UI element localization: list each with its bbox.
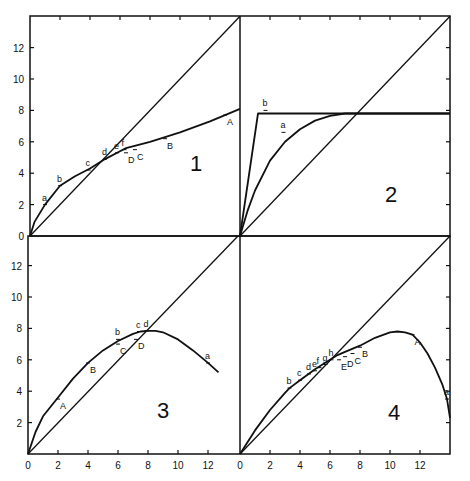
point-label-A: A (227, 117, 233, 127)
y-tick-label: 2 (18, 200, 24, 211)
curve-diagonal-panel-2 (240, 16, 450, 236)
point-label-e: e (114, 141, 119, 151)
point-label-f: f (317, 356, 320, 366)
point-label-a: a (205, 351, 210, 361)
figure-four-panel: 02468101224681012024681012024681012 abcd… (0, 0, 470, 481)
x-tick-label: 0 (237, 460, 243, 471)
x-tick-label: 4 (85, 460, 91, 471)
x-tick-label: 2 (55, 460, 61, 471)
y-tick-label: 4 (16, 386, 22, 397)
point-label-B: B (167, 141, 173, 151)
point-label-a: a (281, 120, 286, 130)
curve-curve-panel-1 (30, 109, 240, 236)
curve-a-panel-2 (240, 114, 450, 237)
x-tick-label: 2 (267, 460, 273, 471)
y-tick-label: 8 (18, 105, 24, 116)
point-label-c: c (136, 320, 141, 330)
point-label-d: d (102, 147, 107, 157)
point-label-b: b (57, 174, 62, 184)
curve-curve-panel-4 (240, 332, 450, 455)
curve-b-panel-2 (240, 114, 450, 237)
point-label-a: a (42, 193, 47, 203)
x-tick-label: 10 (172, 460, 184, 471)
panel-number-1: 1 (190, 151, 202, 176)
x-tick-label: 12 (202, 460, 214, 471)
x-tick-label: 10 (384, 460, 396, 471)
x-tick-label: 6 (327, 460, 333, 471)
point-label-c: c (86, 158, 91, 168)
point-label-b: b (287, 376, 292, 386)
point-label-g: g (323, 353, 328, 363)
point-label-d: d (144, 319, 149, 329)
y-tick-label: 6 (18, 137, 24, 148)
point-label-D: D (347, 359, 354, 369)
point-label-B: B (90, 365, 96, 375)
point-labels: abcdefDCBAbaABbCcdDabcdefghEDCBAa (42, 98, 449, 411)
panel-number-2: 2 (385, 182, 397, 207)
point-label-A: A (415, 337, 421, 347)
y-tick-label: 12 (13, 43, 25, 54)
curve-diagonal-panel-1 (30, 16, 240, 236)
x-tick-label: 0 (25, 460, 31, 471)
lower-frame (28, 236, 450, 454)
point-label-c: c (297, 368, 302, 378)
y-tick-label: 6 (16, 355, 22, 366)
point-label-C: C (120, 346, 127, 356)
point-label-D: D (128, 155, 135, 165)
y-tick-label: 10 (11, 292, 23, 303)
point-label-h: h (329, 348, 334, 358)
panel-number-3: 3 (157, 398, 169, 423)
x-tick-label: 6 (115, 460, 121, 471)
point-label-b: b (263, 98, 268, 108)
x-tick-label: 8 (145, 460, 151, 471)
point-label-f: f (122, 138, 125, 148)
point-label-b: b (115, 327, 120, 337)
y-tick-label: 2 (16, 418, 22, 429)
curves (28, 16, 450, 454)
x-tick-label: 8 (357, 460, 363, 471)
point-label-D: D (138, 341, 145, 351)
point-label-a: a (444, 387, 449, 397)
y-tick-label: 8 (16, 323, 22, 334)
y-tick-label: 0 (18, 231, 24, 242)
y-tick-label: 10 (13, 74, 25, 85)
x-tick-label: 12 (414, 460, 426, 471)
y-tick-label: 4 (18, 168, 24, 179)
point-label-A: A (60, 401, 66, 411)
point-label-d: d (306, 362, 311, 372)
point-label-C: C (137, 152, 144, 162)
y-tick-label: 12 (11, 261, 23, 272)
panel-number-4: 4 (388, 400, 400, 425)
point-label-B: B (362, 349, 368, 359)
curve-diagonal-panel-3 (28, 236, 238, 454)
point-label-C: C (355, 356, 362, 366)
x-tick-label: 4 (297, 460, 303, 471)
